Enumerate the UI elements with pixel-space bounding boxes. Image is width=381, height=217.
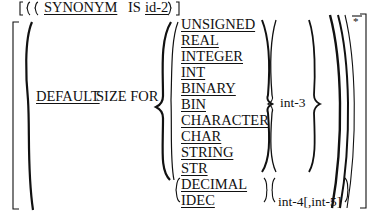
int-3-arg: int-3 bbox=[280, 95, 306, 111]
option-char: CHAR bbox=[181, 128, 221, 144]
option-integer: INTEGER bbox=[181, 48, 243, 64]
outer-left-bracket bbox=[13, 22, 19, 209]
id-2-identifier: id-2 bbox=[145, 0, 168, 15]
option-character: CHARACTER bbox=[181, 112, 269, 128]
is-label: IS bbox=[128, 0, 141, 15]
int-4-int-5-arg: int-4[,int-5] bbox=[278, 194, 341, 210]
option-binary: BINARY bbox=[181, 80, 236, 96]
option-bin: BIN bbox=[181, 96, 206, 112]
repeat-asterisk: * bbox=[353, 13, 359, 29]
left-paren bbox=[26, 22, 33, 210]
option-int: INT bbox=[181, 64, 205, 80]
synonym-keyword: SYNONYM bbox=[44, 0, 117, 15]
top-left-bracket bbox=[20, 2, 23, 15]
outer-right-bracket bbox=[360, 14, 366, 208]
option-str: STR bbox=[181, 160, 208, 176]
option-string: STRING bbox=[181, 144, 233, 160]
default-keyword: DEFAULT bbox=[36, 88, 100, 104]
option-decimal: DECIMAL bbox=[181, 176, 247, 192]
top-right-bracket bbox=[176, 2, 179, 15]
option-idec: IDEC bbox=[181, 192, 215, 208]
option-unsigned: UNSIGNED bbox=[181, 16, 255, 32]
option-real: REAL bbox=[181, 32, 219, 48]
size-for-text: SIZE FOR bbox=[96, 88, 158, 104]
right-paren-1 bbox=[330, 15, 340, 208]
